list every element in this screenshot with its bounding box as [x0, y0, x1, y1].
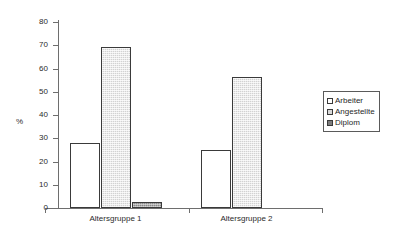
bar-angestellte-1: [101, 47, 131, 208]
y-axis-tick-label: 70: [18, 41, 48, 49]
bar-arbeiter-1: [70, 143, 100, 208]
chart-legend: ArbeiterAngestellteDiplom: [323, 91, 380, 132]
y-axis-tick-label: 80: [18, 18, 48, 26]
y-axis-tick-label: 50: [18, 88, 48, 96]
bar-angestellte-2: [232, 77, 262, 208]
x-axis-category-label: Altersgruppe 1: [50, 214, 181, 223]
legend-item[interactable]: Angestellte: [327, 106, 375, 117]
y-axis-tick-label: 0: [18, 204, 48, 212]
x-axis-line: [45, 208, 322, 209]
bar-chart: % 01020304050607080 Altersgruppe 1Alters…: [0, 0, 400, 246]
legend-item[interactable]: Arbeiter: [327, 95, 375, 106]
plot-area: [58, 22, 320, 208]
legend-swatch-icon: [327, 98, 333, 104]
y-axis-tick-label: 10: [18, 181, 48, 189]
legend-item-label: Arbeiter: [335, 97, 363, 105]
x-axis-separator: [45, 208, 46, 213]
x-axis-separator: [189, 208, 190, 213]
y-axis-tick-label: 40: [18, 111, 48, 119]
y-axis-tick: [53, 208, 59, 209]
y-axis-title: %: [16, 118, 23, 126]
y-axis-tick-label: 20: [18, 158, 48, 166]
bar-diplom-1: [132, 202, 162, 208]
bar-arbeiter-2: [201, 150, 231, 208]
x-axis-category-label: Altersgruppe 2: [181, 214, 312, 223]
legend-item[interactable]: Diplom: [327, 117, 375, 128]
y-axis-tick-label: 30: [18, 134, 48, 142]
y-axis-tick-label: 60: [18, 65, 48, 73]
legend-item-label: Diplom: [335, 119, 360, 127]
legend-swatch-icon: [327, 109, 333, 115]
legend-item-label: Angestellte: [335, 108, 375, 116]
legend-swatch-icon: [327, 120, 333, 126]
x-axis-separator: [322, 208, 323, 213]
